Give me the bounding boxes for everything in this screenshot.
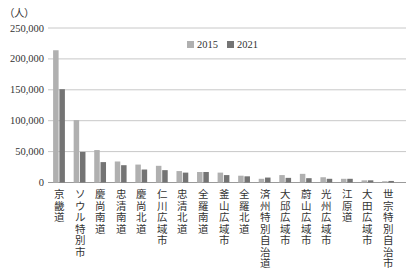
x-category-label: 江原道 [342, 188, 353, 223]
bar-2015-15 [362, 180, 368, 182]
bar-2021-0 [59, 89, 65, 182]
x-category-label: 慶尚北道 [136, 188, 147, 235]
x-category-label: 慶尚南道 [95, 188, 106, 235]
x-category-label: 光州広域市 [321, 188, 332, 246]
x-category-label: 仁川広域市 [157, 188, 168, 246]
x-axis-category-labels: 京畿道ソウル特別市慶尚南道忠清南道慶尚北道仁川広域市忠清北道全羅南道釜山広域市全… [54, 188, 394, 269]
bars [53, 50, 394, 182]
bar-2021-12 [306, 178, 312, 182]
bar-2021-3 [121, 165, 127, 182]
x-category-label: 全羅北道 [239, 188, 250, 235]
y-tick-label: 150,000 [10, 84, 44, 95]
bar-2015-14 [341, 179, 347, 183]
x-category-label: 大邱広域市 [280, 188, 291, 246]
x-category-label: 蔚山広域市 [301, 188, 312, 246]
gridlines [48, 28, 406, 183]
bar-2015-1 [74, 120, 80, 182]
bar-2015-12 [300, 174, 306, 183]
bar-2021-2 [101, 162, 107, 182]
legend-label-2015: 2015 [197, 39, 218, 50]
bar-2021-13 [327, 179, 333, 183]
bar-2021-16 [388, 181, 394, 183]
bar-2021-4 [142, 170, 148, 183]
x-category-label: 京畿道 [54, 188, 65, 223]
bar-2015-5 [156, 166, 162, 183]
y-tick-label: 100,000 [10, 115, 44, 126]
bar-chart: （人） 050,000100,000150,000200,000250,000 … [0, 0, 406, 271]
bar-2021-14 [347, 179, 353, 183]
y-axis-tick-labels: 050,000100,000150,000200,000250,000 [10, 23, 44, 189]
legend-swatch-2021 [227, 41, 234, 48]
legend-swatch-2015 [187, 41, 194, 48]
legend: 2015 2021 [187, 39, 258, 50]
bar-2015-2 [94, 150, 100, 182]
bar-2015-10 [259, 179, 265, 183]
y-tick-label: 200,000 [10, 53, 44, 64]
y-tick-label: 250,000 [10, 23, 44, 34]
bar-2015-16 [382, 181, 388, 182]
bar-2015-6 [176, 171, 182, 182]
x-category-label: 済州特別自治道 [260, 188, 271, 269]
x-category-label: 釜山広域市 [219, 188, 230, 246]
x-category-label: ソウル特別市 [75, 188, 86, 258]
bar-2021-11 [286, 178, 292, 183]
bar-2015-9 [238, 176, 244, 183]
bar-2021-6 [183, 173, 189, 183]
bar-2021-5 [162, 170, 168, 182]
bar-2015-7 [197, 172, 203, 183]
y-axis-unit-label: （人） [4, 8, 34, 19]
x-category-label: 世宗特別自治市 [383, 188, 394, 269]
bar-2015-11 [279, 175, 285, 182]
bar-2021-8 [224, 175, 230, 182]
bar-2015-13 [320, 177, 326, 182]
bar-2021-15 [368, 180, 374, 182]
bar-2021-1 [80, 152, 86, 183]
bar-2015-4 [135, 165, 141, 183]
bar-2021-9 [244, 176, 250, 182]
bar-2015-0 [53, 50, 59, 182]
y-tick-label: 0 [39, 177, 44, 188]
bar-2015-3 [115, 161, 121, 182]
x-category-label: 大田広域市 [362, 188, 373, 246]
x-category-label: 忠清南道 [116, 188, 127, 235]
x-category-label: 忠清北道 [177, 188, 188, 235]
legend-label-2021: 2021 [237, 39, 258, 50]
bar-2021-10 [265, 178, 271, 183]
x-category-label: 全羅南道 [198, 188, 209, 235]
y-tick-label: 50,000 [15, 146, 44, 157]
bar-2021-7 [203, 172, 209, 183]
bar-2015-8 [218, 173, 224, 183]
